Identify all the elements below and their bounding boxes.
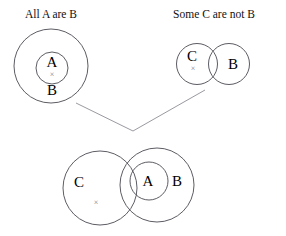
connector-right-arm bbox=[133, 90, 205, 131]
premise-left-label-b: B bbox=[47, 82, 57, 98]
euler-diagram-figure: All A are B A × B Some C are not B C × B bbox=[0, 0, 286, 236]
premise-left-title: All A are B bbox=[25, 8, 77, 20]
connector-left-arm bbox=[76, 103, 133, 131]
conclusion-x-mark: × bbox=[94, 198, 99, 207]
premise-left-x-mark: × bbox=[50, 70, 55, 79]
premise-left-group: All A are B A × B bbox=[14, 8, 88, 103]
premise-right-title: Some C are not B bbox=[173, 8, 255, 20]
conclusion-circle-b bbox=[120, 148, 194, 222]
conclusion-label-c: C bbox=[74, 174, 84, 190]
premise-right-label-c: C bbox=[187, 48, 197, 64]
conclusion-label-b: B bbox=[172, 173, 182, 189]
premise-right-label-b: B bbox=[228, 56, 238, 72]
conclusion-label-a: A bbox=[143, 173, 154, 189]
premise-right-group: Some C are not B C × B bbox=[173, 8, 255, 85]
premise-left-label-a: A bbox=[47, 54, 58, 70]
diagram-canvas: All A are B A × B Some C are not B C × B bbox=[0, 0, 286, 236]
conclusion-group: C × A B bbox=[63, 148, 194, 225]
premise-right-x-mark: × bbox=[191, 64, 196, 73]
connector-group bbox=[76, 90, 205, 131]
